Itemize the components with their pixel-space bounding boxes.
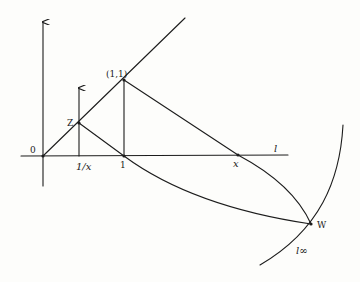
label-origin: 0 [30,145,36,155]
horizontal-axis-l [21,155,288,156]
curve-one-to-w [124,156,311,224]
point-one [122,154,125,157]
diagram-svg: 0 Z (1,1) 1/x 1 x l W l∞ [0,0,360,282]
label-z: Z [67,118,73,128]
label-l-infinity: l∞ [296,245,308,256]
z-to-one-line [79,123,124,156]
point-z [77,121,80,124]
label-inv-x: 1/x [76,161,92,172]
label-line-l: l [274,143,277,154]
one-one-to-x-line [124,80,238,155]
diagram-canvas: 0 Z (1,1) 1/x 1 x l W l∞ [0,0,360,282]
l-infinity-curve [260,125,343,265]
label-x: x [233,158,239,169]
label-one: 1 [120,160,126,170]
point-w [309,222,312,225]
diagonal-y-equals-x [43,18,185,156]
curve-x-to-w [238,155,311,224]
label-w: W [317,220,327,230]
point-x [236,153,239,156]
label-one-one: (1,1) [106,69,127,79]
point-origin [41,154,44,157]
